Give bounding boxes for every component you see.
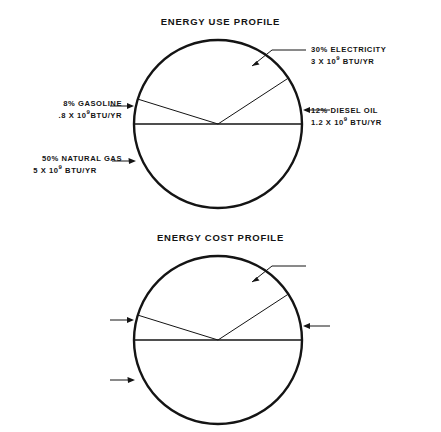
leader-arrow-gasoline	[127, 103, 134, 109]
leader-arrow-natural-gas	[252, 277, 260, 282]
callout-label-electricity-use: 30% ELECTRICITY 3 X 109 BTU/YR	[311, 44, 386, 67]
callout-value: 3 X 109 BTU/YR	[311, 56, 386, 68]
callout-title: 50% NATURAL GAS	[8, 153, 122, 165]
callout-value: 5 X 109 BTU/YR	[8, 165, 122, 177]
callout-label-natural-gas-use: 50% NATURAL GAS 5 X 109 BTU/YR	[8, 153, 122, 176]
callout-value: .8 X 109BTU/YR	[18, 110, 122, 122]
callout-title: 30% ELECTRICITY	[311, 44, 386, 56]
leader-arrow-diesel	[127, 317, 134, 323]
leader-arrow-electricity	[128, 377, 136, 383]
callout-label-gasoline-use: 8% GASOLINE .8 X 109BTU/YR	[18, 98, 122, 121]
leader-arrow-diesel	[303, 107, 310, 113]
pie-slice-edge-diesel	[138, 315, 219, 340]
energy-use-profile-chart: ENERGY USE PROFILE 30% ELE	[0, 0, 441, 216]
callout-title: 8% GASOLINE	[18, 98, 122, 110]
pie-slice-edge-gasoline	[138, 99, 219, 124]
figure-page: ENERGY USE PROFILE 30% ELE	[0, 0, 441, 432]
callout-value: 1.2 X 109 BTU/YR	[311, 117, 382, 129]
energy-cost-profile-chart: ENERGY COST PROFILE 29% NATURAL GAS $29,…	[0, 216, 441, 432]
callout-title: 12% DIESEL OIL	[311, 105, 382, 117]
leader-arrow-electricity	[252, 61, 260, 66]
callout-label-diesel-use: 12% DIESEL OIL 1.2 X 109 BTU/YR	[311, 105, 382, 128]
leader-arrow-natural-gas	[129, 158, 137, 164]
pie-slice-edge-gasoline	[218, 294, 289, 340]
leader-arrow-gasoline	[303, 323, 310, 329]
pie-slice-edge-diesel	[218, 78, 289, 124]
energy-cost-pie-diagram	[0, 216, 441, 432]
